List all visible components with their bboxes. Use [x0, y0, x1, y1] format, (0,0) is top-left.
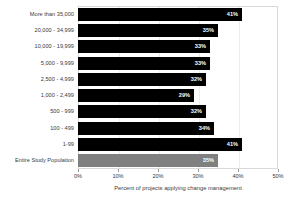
bar-row: 100 - 49934% — [0, 120, 296, 136]
bar: 33% — [78, 57, 210, 70]
bar: 41% — [78, 138, 242, 151]
bar-value-label: 34% — [199, 125, 214, 132]
bar-row: 5,000 - 9,99933% — [0, 55, 296, 71]
bar: 34% — [78, 122, 214, 135]
bar-container: 41% — [78, 8, 242, 21]
x-tick — [158, 169, 159, 172]
x-tick — [78, 169, 79, 172]
category-label: 2,500 - 4,999 — [0, 76, 74, 83]
bar-value-label: 32% — [191, 76, 206, 83]
category-label: Entire Study Population — [0, 157, 74, 164]
bar-row: Entire Study Population35% — [0, 153, 296, 169]
bar-container: 33% — [78, 57, 210, 70]
x-tick-label: 0% — [74, 173, 82, 180]
bar-row: 2,500 - 4,99932% — [0, 71, 296, 87]
bar: 32% — [78, 73, 206, 86]
x-tick — [278, 169, 279, 172]
bar: 35% — [78, 154, 218, 167]
bar-row: 20,000 - 34,99935% — [0, 22, 296, 38]
bar-value-label: 41% — [227, 141, 242, 148]
category-label: 1-99 — [0, 141, 74, 148]
bar-value-label: 33% — [195, 43, 210, 50]
bar-container: 32% — [78, 105, 206, 118]
bar-container: 32% — [78, 73, 206, 86]
bar: 33% — [78, 40, 210, 53]
x-tick — [118, 169, 119, 172]
bar-container: 33% — [78, 40, 210, 53]
category-label: 100 - 499 — [0, 125, 74, 132]
x-tick-label: 40% — [232, 173, 243, 180]
bar-row: 1,000 - 2,49929% — [0, 88, 296, 104]
bar-row: More than 35,00041% — [0, 6, 296, 22]
x-tick-label: 30% — [192, 173, 203, 180]
bar-row: 10,000 - 19,99933% — [0, 39, 296, 55]
category-label: More than 35,000 — [0, 11, 74, 18]
x-axis: 0%10%20%30%40%50% — [78, 169, 278, 183]
bar: 29% — [78, 89, 194, 102]
bar-value-label: 35% — [203, 27, 218, 34]
category-label: 500 - 999 — [0, 108, 74, 115]
x-axis-title: Percent of projects applying change mana… — [78, 184, 278, 192]
bar-value-label: 33% — [195, 60, 210, 67]
bar-container: 29% — [78, 89, 194, 102]
category-label: 5,000 - 9,999 — [0, 60, 74, 67]
bar-container: 35% — [78, 24, 218, 37]
x-tick-label: 20% — [152, 173, 163, 180]
bar-container: 34% — [78, 122, 214, 135]
x-tick — [198, 169, 199, 172]
x-tick-label: 50% — [272, 173, 283, 180]
category-label: 10,000 - 19,999 — [0, 43, 74, 50]
bar-value-label: 41% — [227, 11, 242, 18]
bar-value-label: 35% — [203, 157, 218, 164]
bar-container: 35% — [78, 154, 218, 167]
bar-value-label: 29% — [179, 92, 194, 99]
bar-chart: More than 35,00041%20,000 - 34,99935%10,… — [0, 0, 296, 201]
bar: 32% — [78, 105, 206, 118]
category-label: 1,000 - 2,499 — [0, 92, 74, 99]
x-tick-label: 10% — [112, 173, 123, 180]
x-tick — [238, 169, 239, 172]
bar-row: 1-9941% — [0, 136, 296, 152]
bar: 41% — [78, 8, 242, 21]
bar-value-label: 32% — [191, 108, 206, 115]
bar-rows: More than 35,00041%20,000 - 34,99935%10,… — [0, 6, 296, 169]
bar-container: 41% — [78, 138, 242, 151]
bar-row: 500 - 99932% — [0, 104, 296, 120]
bar: 35% — [78, 24, 218, 37]
category-label: 20,000 - 34,999 — [0, 27, 74, 34]
